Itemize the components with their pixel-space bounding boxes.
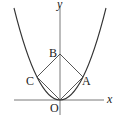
point-b-label: B: [49, 46, 57, 60]
point-a-label: A: [82, 74, 91, 88]
point-c-label: C: [26, 74, 34, 88]
y-axis-label: y: [56, 0, 63, 11]
origin-label: O: [50, 101, 59, 115]
x-axis-label: x: [106, 92, 113, 106]
diagram-canvas: y x O B A C: [0, 0, 124, 125]
